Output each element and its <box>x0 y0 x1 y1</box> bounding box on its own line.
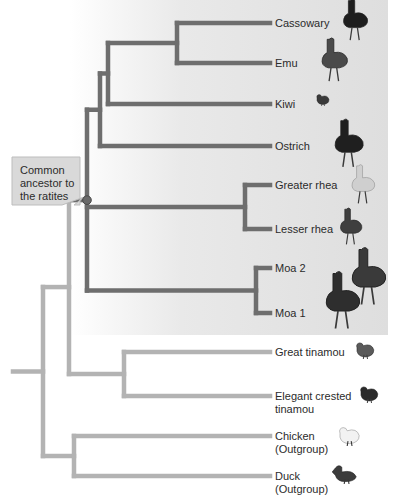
taxon-labels: CassowaryEmuKiwiOstrichGreater rheaLesse… <box>275 17 351 495</box>
tree-branches <box>13 23 270 476</box>
tree-nodes <box>83 196 92 205</box>
callout-line-1: Common <box>20 164 65 176</box>
emu-icon <box>322 38 347 81</box>
ostrich-icon <box>335 119 363 167</box>
kiwi-icon <box>317 95 329 107</box>
taxon-label-moa-1: Moa 1 <box>275 307 306 319</box>
greater-rhea-icon <box>352 165 375 204</box>
callout-line-3: the ratites <box>20 190 69 202</box>
taxon-label-greater-rhea: Greater rhea <box>275 179 338 191</box>
phylogenetic-tree-figure: Common ancestor to the ratites Cassowary… <box>0 0 395 497</box>
taxon-label-duck-line-1: Duck <box>275 470 301 482</box>
taxon-label-duck-line-2: (Outgroup) <box>275 483 328 495</box>
duck-icon <box>332 466 356 484</box>
great-tinamou-icon <box>357 343 374 359</box>
taxon-label-lesser-rhea: Lesser rhea <box>275 223 334 235</box>
taxon-label-moa-2: Moa 2 <box>275 262 306 274</box>
taxon-label-elegant-crested-tinamou-line-2: tinamou <box>275 403 314 415</box>
chicken-icon <box>340 428 360 446</box>
taxon-label-ostrich: Ostrich <box>275 140 310 152</box>
lesser-rhea-icon <box>340 208 361 244</box>
taxon-label-cassowary: Cassowary <box>275 17 330 29</box>
phylogenetic-tree: Common ancestor to the ratites Cassowary… <box>0 0 395 497</box>
taxon-label-great-tinamou: Great tinamou <box>275 346 345 358</box>
taxon-label-chicken-line-1: Chicken <box>275 430 315 442</box>
bird-icons <box>317 0 386 484</box>
taxon-label-kiwi: Kiwi <box>275 98 295 110</box>
taxon-label-chicken-line-2: (Outgroup) <box>275 443 328 455</box>
ancestor-callout: Common ancestor to the ratites <box>12 157 84 205</box>
cassowary-icon <box>344 0 368 40</box>
ratite-ancestor-node <box>83 196 92 205</box>
callout-line-2: ancestor to <box>20 177 74 189</box>
taxon-label-elegant-crested-tinamou-line-1: Elegant crested <box>275 390 351 402</box>
crested-tinamou-icon <box>361 387 378 403</box>
taxon-label-emu: Emu <box>275 57 298 69</box>
